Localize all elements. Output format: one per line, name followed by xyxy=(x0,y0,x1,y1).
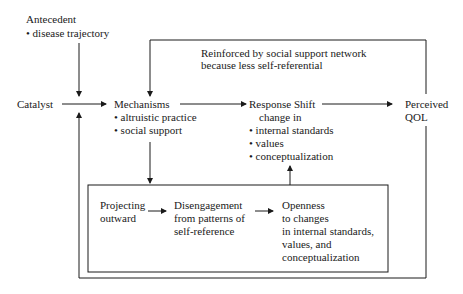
perceived-qol-line1: Perceived xyxy=(405,98,448,111)
disengagement-line2: from patterns of xyxy=(174,212,245,225)
openness-line3: in internal standards, xyxy=(282,225,374,238)
response-shift-item: • conceptualization xyxy=(249,150,333,163)
mechanisms-item: • altruistic practice xyxy=(114,111,197,124)
disengagement-line1: Disengagement xyxy=(174,199,242,212)
projecting-line1: Projecting xyxy=(100,199,145,212)
catalyst-label: Catalyst xyxy=(17,98,53,111)
diagram-connectors xyxy=(0,0,463,294)
openness-line2: to changes xyxy=(282,212,329,225)
perceived-qol-line2: QOL xyxy=(405,111,428,124)
response-shift-title: Response Shift xyxy=(249,98,315,111)
openness-line4: values, and xyxy=(282,238,331,251)
openness-line5: conceptualization xyxy=(282,251,360,264)
reinforced-line2: because less self-referential xyxy=(201,59,323,72)
response-shift-item: • values xyxy=(249,137,284,150)
antecedent-bullet: • disease trajectory xyxy=(26,27,109,40)
mechanisms-item: • social support xyxy=(114,124,182,137)
response-shift-subtitle: change in xyxy=(259,111,301,124)
projecting-line2: outward xyxy=(100,212,136,225)
mechanisms-title: Mechanisms xyxy=(114,98,170,111)
antecedent-title: Antecedent xyxy=(26,13,76,26)
response-shift-item: • internal standards xyxy=(249,124,334,137)
disengagement-line3: self-reference xyxy=(174,225,234,238)
openness-line1: Openness xyxy=(282,199,325,212)
